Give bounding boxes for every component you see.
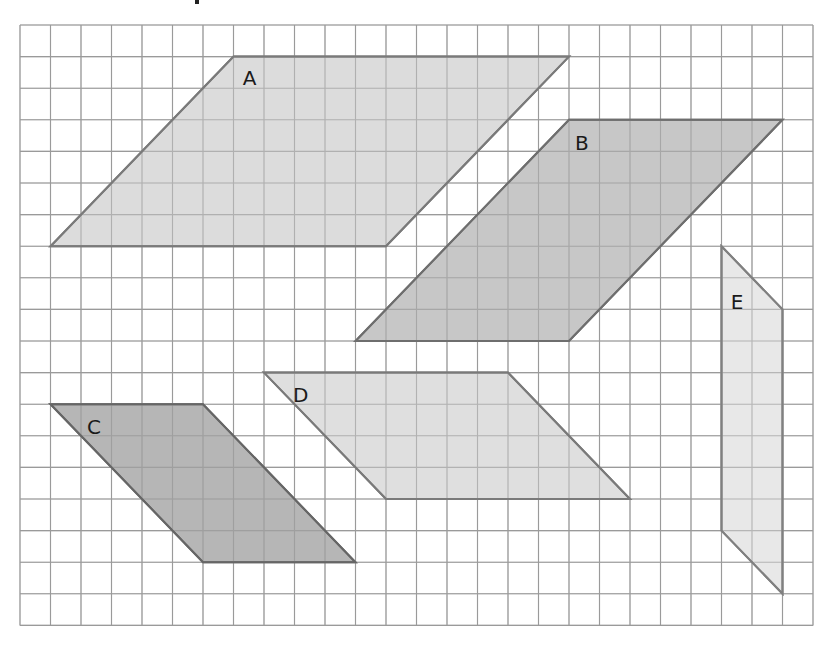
shape-label: A xyxy=(243,66,257,90)
shape-label: E xyxy=(731,290,744,314)
cropped-heading-fragment xyxy=(195,0,199,4)
parallelogram-grid-figure: ABCDE xyxy=(0,0,831,646)
grid-overlay xyxy=(20,25,813,625)
shape-label: D xyxy=(293,383,308,407)
shape-label: B xyxy=(575,131,589,155)
shape-label: C xyxy=(87,415,101,439)
